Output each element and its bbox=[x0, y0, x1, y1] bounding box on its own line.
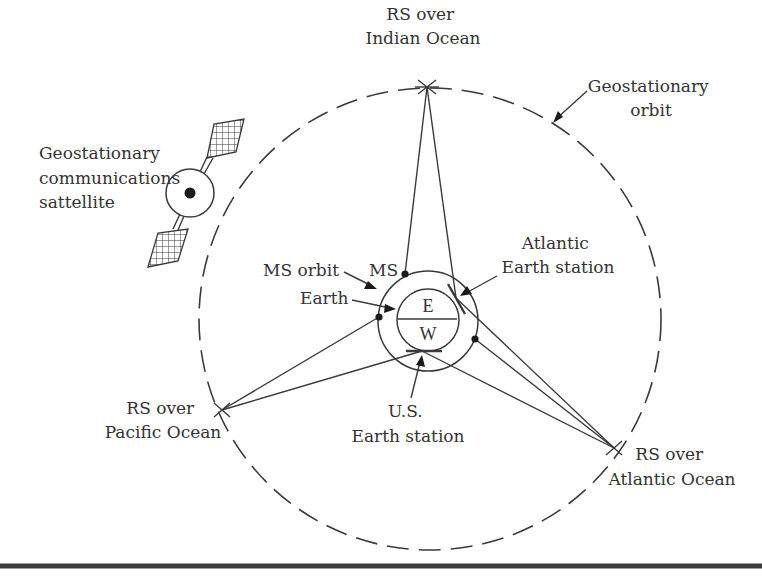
link-indian-ms bbox=[405, 87, 427, 274]
ms-label: MS bbox=[369, 260, 398, 280]
ms-dot-top bbox=[401, 270, 408, 277]
link-indian-atlantic-station bbox=[427, 87, 456, 298]
ms-dot-left bbox=[375, 313, 382, 320]
satellite-label: Geostationary communications sattellite bbox=[39, 143, 186, 212]
ms-orbit-label: MS orbit bbox=[263, 260, 339, 280]
ms-dot-right bbox=[471, 335, 478, 342]
link-atlantic-atlantic-station bbox=[456, 298, 614, 448]
us-earth-station-label: U.S. Earth station bbox=[352, 401, 465, 446]
rs-pacific-marker bbox=[214, 403, 230, 417]
link-atlantic-ms bbox=[475, 339, 614, 448]
satellite-network-diagram: E W Geostationary communications sattell… bbox=[0, 0, 762, 584]
earth-label: Earth bbox=[300, 288, 349, 308]
earth-east-label: E bbox=[423, 296, 434, 316]
satellite-icon bbox=[148, 119, 244, 267]
rs-pacific-label: RS over Pacific Ocean bbox=[105, 398, 222, 442]
rs-indian-label: RS over Indian Ocean bbox=[365, 4, 480, 48]
rs-atlantic-label: RS over Atlantic Ocean bbox=[607, 444, 735, 489]
link-pacific-ms bbox=[222, 317, 379, 410]
ms-orbit-circle bbox=[378, 271, 478, 371]
earth-west-label: W bbox=[420, 324, 437, 344]
rs-atlantic-marker bbox=[606, 441, 622, 455]
geostationary-orbit-label: Geostationary orbit bbox=[588, 76, 714, 120]
atlantic-earth-station-label: Atlantic Earth station bbox=[502, 233, 615, 277]
